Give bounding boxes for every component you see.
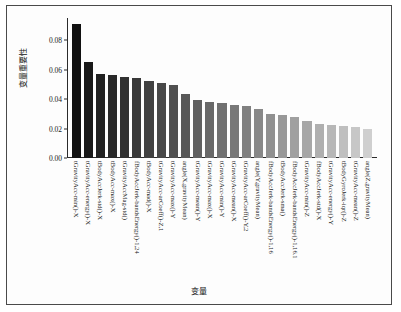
bar-slot (155, 18, 167, 158)
plot-area: 0.000.020.040.060.08 (67, 18, 377, 158)
bar[interactable] (315, 124, 324, 158)
x-axis-tick-label: tGravityAcc-arCoeff()-Y,2 (243, 161, 250, 231)
bar[interactable] (254, 109, 263, 158)
bar-slot (179, 18, 191, 158)
bar[interactable] (363, 129, 372, 158)
x-tick-slot: angle(Y,gravityMean) (252, 160, 264, 278)
x-tick-slot: fBodyAccJerk-bandsEnergy()-1,24 (131, 160, 143, 278)
x-tick-slot: tBodyAccJerk-sma() (277, 160, 289, 278)
x-axis-tick-label: tGravityAcc-min()-X (73, 161, 80, 217)
bar[interactable] (96, 74, 105, 158)
x-tick-slot: tGravityAcc-min()-Y (216, 160, 228, 278)
bar-slot (204, 18, 216, 158)
bar[interactable] (266, 114, 275, 158)
bar-slot (143, 18, 155, 158)
y-axis-label: 变量重要性 (17, 48, 28, 88)
x-tick-slot: tBodyGyroJerk-iqr()-Z (337, 160, 349, 278)
x-tick-slot: fBodyAccJerk-bandsEnergy()-1,16 (265, 160, 277, 278)
x-tick-slot: tGravityAcc-mean()-Z (350, 160, 362, 278)
bar[interactable] (181, 94, 190, 158)
bar[interactable] (84, 62, 93, 158)
x-tick-slot: fBodyAccJerk-std()-X (313, 160, 325, 278)
x-axis-tick-label: tGravityAcc-mean()-Z (352, 161, 359, 221)
bar[interactable] (278, 115, 287, 158)
bar-slot (277, 18, 289, 158)
bar-slot (325, 18, 337, 158)
x-axis-tick-label: tGravityAcc-energy()-Y (328, 161, 335, 225)
bar[interactable] (217, 103, 226, 158)
x-tick-slot: fBodyAccJerk-bandsEnergy()-1,16.1 (289, 160, 301, 278)
bar-series (67, 18, 377, 158)
bar-slot (289, 18, 301, 158)
x-tick-slot: tBodyAccJerk-std()-X (94, 160, 106, 278)
bar[interactable] (120, 77, 129, 158)
x-tick-slot: tGravityAcc-arCoeff()-Z,1 (155, 160, 167, 278)
x-axis-tick-label: tGravityAccMag-std() (121, 161, 128, 220)
x-tick-slot: tGravityAcc-energy()-X (82, 160, 94, 278)
x-axis-tick-label: tGravityAcc-min()-Z (304, 161, 311, 217)
bar-slot (265, 18, 277, 158)
x-axis-tick-label: tBodyGyroJerk-iqr()-Z (340, 161, 347, 222)
x-axis-tick-label: tGravityAcc-max()-Y (170, 161, 177, 219)
x-tick-slot: tGravityAcc-mean()-Y (192, 160, 204, 278)
bar[interactable] (302, 121, 311, 158)
bar[interactable] (205, 102, 214, 158)
bar[interactable] (339, 126, 348, 158)
bar-slot (252, 18, 264, 158)
x-axis-tick-label: tBodyAccJerk-sma() (279, 161, 286, 216)
x-axis-label: 变量 (7, 285, 391, 296)
bar-slot (362, 18, 374, 158)
x-axis-tick-labels: tGravityAcc-min()-XtGravityAcc-energy()-… (67, 160, 377, 278)
bar-slot (313, 18, 325, 158)
x-axis-tick-label: tGravityAcc-energy()-X (85, 161, 92, 225)
bar[interactable] (169, 85, 178, 158)
bar-slot (216, 18, 228, 158)
bar-slot (240, 18, 252, 158)
bar-slot (70, 18, 82, 158)
bar-slot (131, 18, 143, 158)
bar[interactable] (290, 117, 299, 158)
x-axis-tick-label: angle(X,gravityMean) (182, 161, 189, 220)
bar[interactable] (351, 127, 360, 158)
x-axis-tick-label: tBodyAcc-max()-X (109, 161, 116, 213)
x-axis-tick-label: fBodyAccJerk-bandsEnergy()-1,16 (267, 161, 274, 254)
bar[interactable] (193, 100, 202, 158)
x-tick-slot: tGravityAcc-max()-X (204, 160, 216, 278)
x-tick-slot: angle(Z,gravityMean) (362, 160, 374, 278)
x-axis-tick-label: angle(Y,gravityMean) (255, 161, 262, 219)
x-axis-tick-label: fBodyAccJerk-bandsEnergy()-1,24 (134, 161, 141, 254)
bar[interactable] (230, 105, 239, 158)
x-tick-slot: tGravityAcc-mean()-X (228, 160, 240, 278)
x-axis-tick-label: tGravityAcc-mean()-Y (194, 161, 201, 221)
x-axis-tick-label: fBodyAccJerk-bandsEnergy()-1,16.1 (292, 161, 299, 259)
figure-panel: 变量重要性 0.000.020.040.060.08 tGravityAcc-m… (6, 5, 392, 305)
bar[interactable] (157, 83, 166, 158)
bar[interactable] (108, 75, 117, 158)
bar[interactable] (72, 24, 81, 158)
bar-slot (82, 18, 94, 158)
bar-slot (167, 18, 179, 158)
x-tick-slot: tGravityAcc-min()-X (70, 160, 82, 278)
bar-slot (337, 18, 349, 158)
bar[interactable] (327, 125, 336, 158)
x-tick-slot: tGravityAcc-max()-Y (167, 160, 179, 278)
x-tick-slot: tBodyAcc-mad()-X (143, 160, 155, 278)
bar[interactable] (242, 106, 251, 158)
x-axis-tick-label: tGravityAcc-max()-X (207, 161, 214, 219)
x-tick-slot: angle(X,gravityMean) (179, 160, 191, 278)
bar-slot (350, 18, 362, 158)
bar[interactable] (132, 78, 141, 158)
x-axis-tick-label: fBodyAccJerk-std()-X (316, 161, 323, 220)
x-axis-tick-label: angle(Z,gravityMean) (365, 161, 372, 219)
bar-slot (106, 18, 118, 158)
bar-slot (192, 18, 204, 158)
x-tick-slot: tGravityAccMag-std() (119, 160, 131, 278)
bar-slot (228, 18, 240, 158)
bar[interactable] (144, 81, 153, 158)
x-axis-tick-label: tBodyAcc-mad()-X (146, 161, 153, 213)
bar-slot (119, 18, 131, 158)
x-axis-tick-label: tGravityAcc-min()-Y (219, 161, 226, 217)
bar-slot (94, 18, 106, 158)
x-tick-slot: tBodyAcc-max()-X (106, 160, 118, 278)
x-tick-slot: tGravityAcc-min()-Z (301, 160, 313, 278)
